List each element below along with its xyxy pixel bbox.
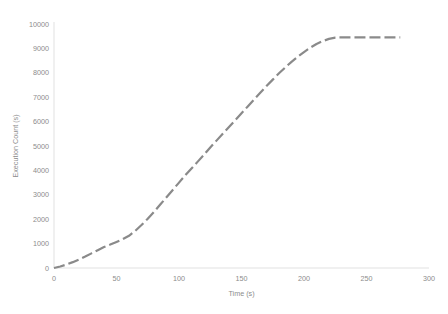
x-tick-label: 200 [298,274,310,283]
y-tick-label: 8000 [33,68,49,77]
x-tick-label: 50 [113,274,121,283]
x-axis-tick-labels: 050100150200250300 [52,274,435,283]
y-axis-tick-labels: 0100020003000400050006000700080009000100… [29,20,49,273]
x-tick-label: 100 [173,274,185,283]
data-series-execution-count [54,37,400,268]
y-tick-label: 4000 [33,166,49,175]
y-tick-label: 0 [45,264,49,273]
x-tick-label: 300 [423,274,435,283]
y-tick-label: 6000 [33,117,49,126]
y-tick-label: 10000 [29,20,49,29]
x-axis-title: Time (s) [228,289,254,298]
y-tick-label: 9000 [33,44,49,53]
y-tick-label: 3000 [33,190,49,199]
y-tick-label: 5000 [33,142,49,151]
y-tick-label: 2000 [33,215,49,224]
y-axis-title: Execution Count (s) [11,114,20,177]
y-tick-label: 7000 [33,93,49,102]
y-tick-label: 1000 [33,239,49,248]
x-tick-label: 250 [361,274,373,283]
x-tick-label: 150 [236,274,248,283]
line-chart: 0100020003000400050006000700080009000100… [0,0,448,314]
chart-container: 0100020003000400050006000700080009000100… [0,0,448,314]
x-tick-label: 0 [52,274,56,283]
